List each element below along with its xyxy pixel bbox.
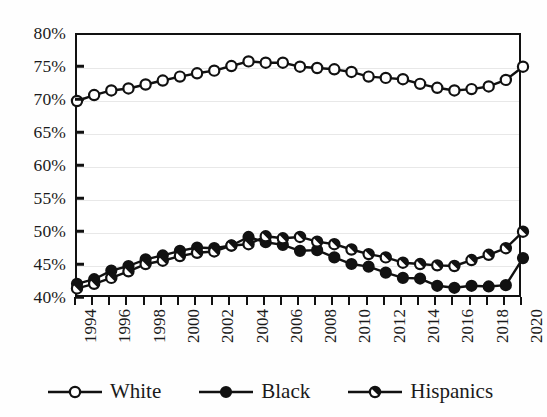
data-point-open-circle bbox=[278, 58, 288, 68]
x-tick-mark bbox=[366, 297, 368, 305]
data-point-half-circle bbox=[243, 239, 253, 249]
x-tick-label: 1996 bbox=[115, 309, 135, 343]
data-point-filled-circle bbox=[415, 273, 425, 283]
data-point-open-circle bbox=[381, 73, 391, 83]
data-point-open-circle bbox=[329, 64, 339, 74]
data-point-half-circle bbox=[158, 256, 168, 266]
x-tick-mark bbox=[160, 297, 162, 305]
legend-marker-open-circle bbox=[46, 384, 104, 400]
y-tick-label: 50% bbox=[34, 221, 66, 242]
x-tick-mark bbox=[125, 297, 127, 305]
data-point-half-circle bbox=[346, 244, 356, 254]
x-tick-mark bbox=[108, 297, 110, 305]
y-tick-label: 60% bbox=[34, 155, 66, 176]
data-point-half-circle bbox=[261, 231, 271, 241]
data-point-half-circle bbox=[370, 386, 380, 396]
data-point-open-circle bbox=[346, 67, 356, 77]
data-point-open-circle bbox=[141, 79, 151, 89]
data-point-open-circle bbox=[295, 62, 305, 72]
data-point-filled-circle bbox=[501, 280, 511, 290]
data-point-half-circle bbox=[518, 227, 528, 237]
series-layer bbox=[77, 35, 523, 299]
x-tick-mark bbox=[486, 297, 488, 305]
data-point-half-circle bbox=[398, 258, 408, 268]
data-point-open-circle bbox=[158, 75, 168, 85]
data-point-half-circle bbox=[364, 249, 374, 259]
y-tick-label: 75% bbox=[34, 56, 66, 77]
series-markers-white bbox=[72, 56, 528, 106]
y-tick-label: 70% bbox=[34, 89, 66, 110]
data-point-open-circle bbox=[89, 90, 99, 100]
data-point-half-circle bbox=[432, 260, 442, 270]
data-point-half-circle bbox=[466, 255, 476, 265]
x-tick-label: 1998 bbox=[150, 309, 170, 343]
data-point-open-circle bbox=[192, 68, 202, 78]
y-tick-label: 55% bbox=[34, 188, 66, 209]
data-point-half-circle bbox=[278, 233, 288, 243]
x-tick-label: 2020 bbox=[527, 309, 547, 343]
data-point-open-circle bbox=[312, 63, 322, 73]
legend-item-black[interactable]: Black bbox=[197, 381, 310, 402]
data-point-filled-circle bbox=[466, 281, 476, 291]
x-tick-mark bbox=[91, 297, 93, 305]
x-tick-mark bbox=[177, 297, 179, 305]
data-point-filled-circle bbox=[295, 246, 305, 256]
data-point-half-circle bbox=[415, 259, 425, 269]
x-tick-label: 2002 bbox=[218, 309, 238, 343]
data-point-open-circle bbox=[106, 85, 116, 95]
data-point-half-circle bbox=[312, 236, 322, 246]
data-point-half-circle bbox=[141, 259, 151, 269]
x-tick-label: 2012 bbox=[390, 309, 410, 343]
x-tick-mark bbox=[211, 297, 213, 305]
x-tick-mark bbox=[280, 297, 282, 305]
x-tick-label: 2018 bbox=[493, 309, 513, 343]
x-tick-mark bbox=[228, 297, 230, 305]
data-point-half-circle bbox=[329, 239, 339, 249]
data-point-open-circle bbox=[70, 386, 80, 396]
x-tick-mark bbox=[400, 297, 402, 305]
data-point-open-circle bbox=[261, 58, 271, 68]
data-point-filled-circle bbox=[484, 281, 494, 291]
legend-item-white[interactable]: White bbox=[46, 381, 161, 402]
data-point-open-circle bbox=[466, 84, 476, 94]
y-tick-mark bbox=[75, 296, 84, 299]
y-tick-mark bbox=[75, 98, 84, 101]
data-point-half-circle bbox=[72, 283, 82, 293]
y-tick-mark bbox=[75, 230, 84, 233]
data-point-half-circle bbox=[175, 251, 185, 261]
data-point-open-circle bbox=[518, 62, 528, 72]
data-point-half-circle bbox=[89, 279, 99, 289]
data-point-filled-circle bbox=[346, 259, 356, 269]
x-tick-mark bbox=[331, 297, 333, 305]
data-point-half-circle bbox=[209, 246, 219, 256]
x-tick-mark bbox=[417, 297, 419, 305]
x-tick-mark bbox=[434, 297, 436, 305]
data-point-filled-circle bbox=[432, 281, 442, 291]
y-tick-label: 65% bbox=[34, 122, 66, 143]
y-tick-mark bbox=[75, 65, 84, 68]
data-point-open-circle bbox=[501, 75, 511, 85]
x-tick-label: 1994 bbox=[81, 309, 101, 343]
y-tick-mark bbox=[75, 263, 84, 266]
chart-legend: WhiteBlackHispanics bbox=[0, 381, 539, 402]
x-tick-label: 2008 bbox=[321, 309, 341, 343]
x-tick-label: 2006 bbox=[287, 309, 307, 343]
data-point-filled-circle bbox=[518, 253, 528, 263]
y-tick-mark bbox=[75, 164, 84, 167]
y-tick-mark bbox=[75, 131, 84, 134]
data-point-filled-circle bbox=[449, 283, 459, 293]
data-point-filled-circle bbox=[329, 252, 339, 262]
data-point-filled-circle bbox=[381, 268, 391, 278]
legend-marker-half-circle bbox=[346, 384, 404, 400]
x-tick-mark bbox=[194, 297, 196, 305]
x-tick-label: 2014 bbox=[424, 309, 444, 343]
x-tick-mark bbox=[383, 297, 385, 305]
data-point-open-circle bbox=[209, 66, 219, 76]
data-point-half-circle bbox=[123, 266, 133, 276]
data-point-open-circle bbox=[123, 83, 133, 93]
legend-item-hispanics[interactable]: Hispanics bbox=[346, 381, 493, 402]
x-tick-label: 2010 bbox=[355, 309, 375, 343]
data-point-open-circle bbox=[449, 85, 459, 95]
data-point-half-circle bbox=[226, 240, 236, 250]
data-point-open-circle bbox=[484, 81, 494, 91]
